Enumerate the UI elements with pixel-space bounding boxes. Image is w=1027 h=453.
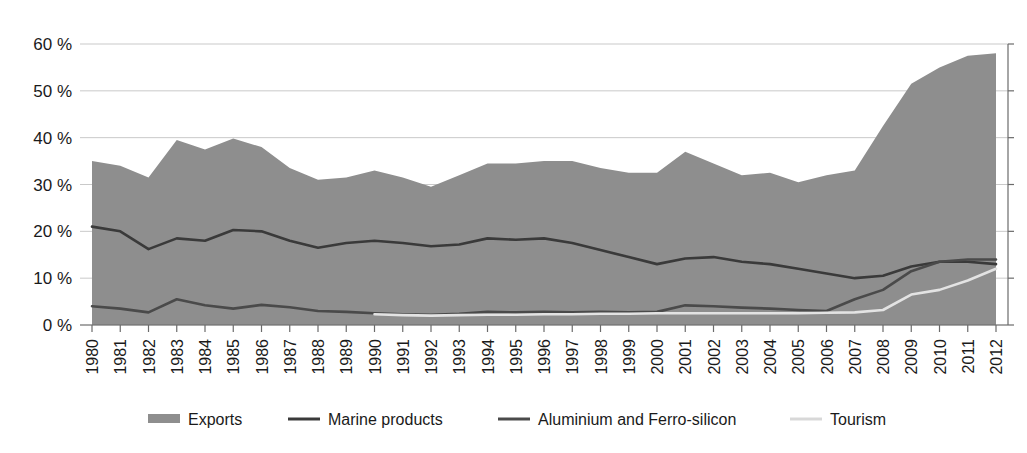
x-tick-label: 1990 bbox=[367, 339, 384, 375]
chart-legend: ExportsMarine productsAluminium and Ferr… bbox=[148, 411, 886, 428]
x-tick-label: 1991 bbox=[395, 339, 412, 375]
area-chart: 0 %10 %20 %30 %40 %50 %60 % 198019811982… bbox=[0, 0, 1027, 453]
x-tick-label: 1994 bbox=[480, 339, 497, 375]
y-tick-label: 20 % bbox=[33, 222, 72, 241]
x-tick-label: 1993 bbox=[451, 339, 468, 375]
x-tick-label: 1984 bbox=[197, 339, 214, 375]
legend-label: Exports bbox=[188, 411, 242, 428]
x-tick-label: 1989 bbox=[338, 339, 355, 375]
legend-label: Aluminium and Ferro-silicon bbox=[538, 411, 736, 428]
y-tick-label: 10 % bbox=[33, 269, 72, 288]
x-tick-label: 1997 bbox=[564, 339, 581, 375]
legend-item-aluminium-and-ferro-silicon[interactable]: Aluminium and Ferro-silicon bbox=[498, 411, 736, 428]
x-tick-label: 1995 bbox=[508, 339, 525, 375]
legend-item-marine-products[interactable]: Marine products bbox=[288, 411, 443, 428]
x-tick-label: 1980 bbox=[84, 339, 101, 375]
x-tick-label: 1985 bbox=[225, 339, 242, 375]
x-tick-label: 2008 bbox=[875, 339, 892, 375]
x-tick-label: 2002 bbox=[706, 339, 723, 375]
y-tick-label: 50 % bbox=[33, 82, 72, 101]
x-tick-label: 2010 bbox=[932, 339, 949, 375]
y-tick-label: 0 % bbox=[43, 316, 72, 335]
x-tick-label: 1982 bbox=[141, 339, 158, 375]
x-tick-label: 2006 bbox=[819, 339, 836, 375]
x-tick-label: 2009 bbox=[903, 339, 920, 375]
x-tick-label: 2004 bbox=[762, 339, 779, 375]
exports-area bbox=[92, 53, 996, 325]
legend-label: Marine products bbox=[328, 411, 443, 428]
x-tick-label: 2005 bbox=[790, 339, 807, 375]
x-tick-label: 1996 bbox=[536, 339, 553, 375]
x-tick-label: 2012 bbox=[988, 339, 1005, 375]
x-tick-label: 1988 bbox=[310, 339, 327, 375]
x-tick-label: 1983 bbox=[169, 339, 186, 375]
legend-item-tourism[interactable]: Tourism bbox=[790, 411, 886, 428]
x-tick-label: 2000 bbox=[649, 339, 666, 375]
chart-container: 0 %10 %20 %30 %40 %50 %60 % 198019811982… bbox=[0, 0, 1027, 453]
x-tick-label: 1986 bbox=[254, 339, 271, 375]
legend-label: Tourism bbox=[830, 411, 886, 428]
x-axis-tick-labels: 1980198119821983198419851986198719881989… bbox=[84, 339, 1005, 375]
x-tick-label: 2001 bbox=[677, 339, 694, 375]
legend-item-exports[interactable]: Exports bbox=[148, 411, 242, 428]
x-tick-label: 2003 bbox=[734, 339, 751, 375]
y-axis-tick-labels: 0 %10 %20 %30 %40 %50 %60 % bbox=[33, 35, 72, 335]
x-tick-label: 1999 bbox=[621, 339, 638, 375]
x-tick-label: 2011 bbox=[960, 339, 977, 374]
x-tick-label: 1992 bbox=[423, 339, 440, 375]
y-tick-label: 60 % bbox=[33, 35, 72, 54]
y-tick-label: 40 % bbox=[33, 129, 72, 148]
x-tick-label: 1987 bbox=[282, 339, 299, 375]
x-tick-label: 1981 bbox=[112, 339, 129, 375]
legend-swatch-bar bbox=[148, 414, 180, 423]
y-tick-label: 30 % bbox=[33, 176, 72, 195]
x-tick-label: 1998 bbox=[593, 339, 610, 375]
exports-area-series bbox=[92, 53, 996, 325]
x-tick-label: 2007 bbox=[847, 339, 864, 375]
